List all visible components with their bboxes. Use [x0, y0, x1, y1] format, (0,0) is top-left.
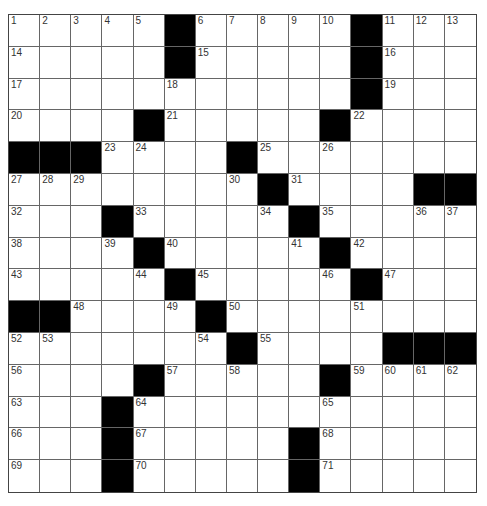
grid-cell[interactable]: 11 — [383, 15, 414, 47]
grid-cell[interactable]: 48 — [71, 301, 102, 333]
grid-cell[interactable] — [165, 206, 196, 238]
grid-cell[interactable] — [102, 301, 133, 333]
grid-cell[interactable] — [414, 47, 445, 79]
grid-cell[interactable]: 13 — [445, 15, 476, 47]
grid-cell[interactable]: 15 — [196, 47, 227, 79]
grid-cell[interactable]: 23 — [102, 142, 133, 174]
grid-cell[interactable] — [258, 110, 289, 142]
grid-cell[interactable]: 25 — [258, 142, 289, 174]
grid-cell[interactable]: 52 — [9, 333, 40, 365]
grid-cell[interactable] — [102, 333, 133, 365]
grid-cell[interactable] — [383, 206, 414, 238]
grid-cell[interactable]: 20 — [9, 110, 40, 142]
grid-cell[interactable] — [414, 301, 445, 333]
grid-cell[interactable] — [196, 174, 227, 206]
grid-cell[interactable]: 14 — [9, 47, 40, 79]
grid-cell[interactable]: 5 — [134, 15, 165, 47]
grid-cell[interactable] — [40, 269, 71, 301]
grid-cell[interactable] — [289, 333, 320, 365]
grid-cell[interactable] — [289, 301, 320, 333]
grid-cell[interactable]: 64 — [134, 397, 165, 429]
grid-cell[interactable] — [165, 428, 196, 460]
grid-cell[interactable] — [351, 206, 382, 238]
grid-cell[interactable] — [258, 238, 289, 270]
grid-cell[interactable] — [414, 110, 445, 142]
grid-cell[interactable] — [445, 269, 476, 301]
grid-cell[interactable] — [71, 238, 102, 270]
grid-cell[interactable] — [258, 397, 289, 429]
grid-cell[interactable] — [383, 142, 414, 174]
grid-cell[interactable]: 41 — [289, 238, 320, 270]
grid-cell[interactable] — [196, 206, 227, 238]
grid-cell[interactable] — [445, 397, 476, 429]
grid-cell[interactable]: 69 — [9, 460, 40, 492]
grid-cell[interactable] — [383, 174, 414, 206]
grid-cell[interactable] — [445, 460, 476, 492]
grid-cell[interactable] — [196, 142, 227, 174]
grid-cell[interactable] — [445, 238, 476, 270]
grid-cell[interactable]: 3 — [71, 15, 102, 47]
grid-cell[interactable] — [227, 47, 258, 79]
grid-cell[interactable]: 34 — [258, 206, 289, 238]
grid-cell[interactable] — [414, 269, 445, 301]
grid-cell[interactable]: 10 — [320, 15, 351, 47]
grid-cell[interactable] — [320, 47, 351, 79]
grid-cell[interactable]: 61 — [414, 365, 445, 397]
grid-cell[interactable] — [227, 269, 258, 301]
grid-cell[interactable]: 59 — [351, 365, 382, 397]
grid-cell[interactable] — [165, 142, 196, 174]
grid-cell[interactable] — [134, 174, 165, 206]
grid-cell[interactable] — [71, 206, 102, 238]
grid-cell[interactable]: 60 — [383, 365, 414, 397]
grid-cell[interactable] — [258, 47, 289, 79]
grid-cell[interactable] — [227, 238, 258, 270]
grid-cell[interactable] — [71, 110, 102, 142]
grid-cell[interactable]: 28 — [40, 174, 71, 206]
grid-cell[interactable]: 45 — [196, 269, 227, 301]
grid-cell[interactable]: 58 — [227, 365, 258, 397]
grid-cell[interactable] — [227, 428, 258, 460]
grid-cell[interactable]: 65 — [320, 397, 351, 429]
grid-cell[interactable] — [289, 47, 320, 79]
grid-cell[interactable] — [165, 397, 196, 429]
grid-cell[interactable] — [40, 397, 71, 429]
grid-cell[interactable]: 57 — [165, 365, 196, 397]
grid-cell[interactable]: 47 — [383, 269, 414, 301]
grid-cell[interactable] — [165, 460, 196, 492]
grid-cell[interactable] — [289, 142, 320, 174]
grid-cell[interactable]: 6 — [196, 15, 227, 47]
grid-cell[interactable] — [227, 79, 258, 111]
grid-cell[interactable] — [196, 79, 227, 111]
grid-cell[interactable] — [414, 460, 445, 492]
grid-cell[interactable]: 38 — [9, 238, 40, 270]
grid-cell[interactable] — [320, 301, 351, 333]
grid-cell[interactable] — [445, 110, 476, 142]
grid-cell[interactable] — [71, 269, 102, 301]
grid-cell[interactable]: 43 — [9, 269, 40, 301]
grid-cell[interactable]: 66 — [9, 428, 40, 460]
grid-cell[interactable] — [383, 301, 414, 333]
grid-cell[interactable] — [40, 206, 71, 238]
grid-cell[interactable]: 62 — [445, 365, 476, 397]
grid-cell[interactable] — [40, 428, 71, 460]
grid-cell[interactable] — [414, 238, 445, 270]
grid-cell[interactable]: 50 — [227, 301, 258, 333]
grid-cell[interactable] — [258, 301, 289, 333]
grid-cell[interactable] — [71, 428, 102, 460]
grid-cell[interactable]: 12 — [414, 15, 445, 47]
grid-cell[interactable] — [351, 460, 382, 492]
grid-cell[interactable]: 33 — [134, 206, 165, 238]
grid-cell[interactable]: 46 — [320, 269, 351, 301]
grid-cell[interactable] — [71, 333, 102, 365]
grid-cell[interactable] — [134, 79, 165, 111]
grid-cell[interactable] — [71, 397, 102, 429]
grid-cell[interactable]: 40 — [165, 238, 196, 270]
grid-cell[interactable]: 49 — [165, 301, 196, 333]
grid-cell[interactable]: 37 — [445, 206, 476, 238]
grid-cell[interactable] — [71, 47, 102, 79]
grid-cell[interactable] — [320, 174, 351, 206]
grid-cell[interactable] — [196, 460, 227, 492]
grid-cell[interactable] — [351, 397, 382, 429]
grid-cell[interactable] — [258, 460, 289, 492]
grid-cell[interactable]: 35 — [320, 206, 351, 238]
